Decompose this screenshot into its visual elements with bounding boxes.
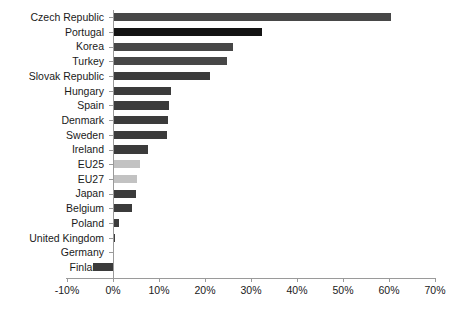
category-label: Hungary bbox=[0, 84, 104, 99]
category-label: Japan bbox=[0, 186, 104, 201]
bar bbox=[113, 160, 140, 168]
bar bbox=[113, 116, 168, 124]
category-label: Denmark bbox=[0, 113, 104, 128]
chart-row: Denmark bbox=[0, 113, 450, 128]
category-label: Korea bbox=[0, 39, 104, 54]
chart-row: Slovak Republic bbox=[0, 69, 450, 84]
bar bbox=[113, 131, 167, 139]
x-tick-mark bbox=[205, 278, 206, 282]
bar bbox=[113, 175, 137, 183]
chart-row: Spain bbox=[0, 98, 450, 113]
chart-row: Turkey bbox=[0, 54, 450, 69]
chart-row: EU27 bbox=[0, 172, 450, 187]
x-tick-mark bbox=[435, 278, 436, 282]
x-tick-mark bbox=[389, 278, 390, 282]
category-label: United Kingdom bbox=[0, 231, 104, 246]
category-label: Spain bbox=[0, 98, 104, 113]
bar bbox=[113, 28, 262, 36]
category-label: Czech Republic bbox=[0, 10, 104, 25]
bar bbox=[113, 13, 391, 21]
category-label: EU27 bbox=[0, 172, 104, 187]
chart-rows: Czech RepublicPortugalKoreaTurkeySlovak … bbox=[0, 0, 450, 278]
chart-row: Belgium bbox=[0, 201, 450, 216]
x-tick-mark bbox=[67, 278, 68, 282]
bar bbox=[113, 190, 136, 198]
chart-row: Czech Republic bbox=[0, 10, 450, 25]
category-label: Portugal bbox=[0, 25, 104, 40]
chart-row: Portugal bbox=[0, 25, 450, 40]
x-tick-mark bbox=[251, 278, 252, 282]
category-label: Poland bbox=[0, 216, 104, 231]
category-label: Ireland bbox=[0, 142, 104, 157]
chart-row: Hungary bbox=[0, 84, 450, 99]
bar bbox=[113, 101, 169, 109]
chart-row: United Kingdom bbox=[0, 231, 450, 246]
category-label: Germany bbox=[0, 245, 104, 260]
category-label: Turkey bbox=[0, 54, 104, 69]
chart-row: Sweden bbox=[0, 128, 450, 143]
category-label: EU25 bbox=[0, 157, 104, 172]
chart-row: Japan bbox=[0, 186, 450, 201]
category-label: Belgium bbox=[0, 201, 104, 216]
bar bbox=[113, 87, 171, 95]
value-axis-line bbox=[113, 10, 114, 278]
x-tick-mark bbox=[297, 278, 298, 282]
chart-row: Ireland bbox=[0, 142, 450, 157]
x-axis: -10%0%10%20%30%40%50%60%70% bbox=[0, 278, 450, 310]
chart-row: EU25 bbox=[0, 157, 450, 172]
bar bbox=[113, 145, 148, 153]
bar-chart: Czech RepublicPortugalKoreaTurkeySlovak … bbox=[0, 0, 450, 310]
chart-row: Poland bbox=[0, 216, 450, 231]
x-tick-mark bbox=[343, 278, 344, 282]
x-tick-mark bbox=[159, 278, 160, 282]
bar bbox=[113, 57, 227, 65]
bar bbox=[113, 204, 132, 212]
x-tick-mark bbox=[113, 278, 114, 282]
category-label: Sweden bbox=[0, 128, 104, 143]
category-label: Slovak Republic bbox=[0, 69, 104, 84]
bar bbox=[113, 72, 210, 80]
chart-row: Finland bbox=[0, 260, 450, 275]
category-label: Finland bbox=[0, 260, 104, 275]
x-tick-label: 70% bbox=[405, 284, 450, 296]
bar bbox=[93, 263, 113, 271]
chart-row: Germany bbox=[0, 245, 450, 260]
bar bbox=[113, 43, 233, 51]
chart-row: Korea bbox=[0, 39, 450, 54]
